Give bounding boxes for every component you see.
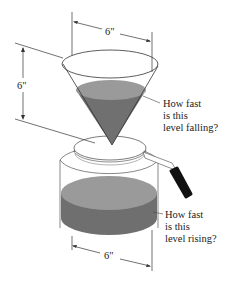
pot-question-line-1: How fast bbox=[165, 209, 203, 220]
cone-rim bbox=[62, 50, 158, 78]
pot-question-line-3: level rising? bbox=[165, 233, 217, 244]
filter-cone bbox=[62, 50, 158, 145]
dimension-label-left: 6" bbox=[17, 80, 27, 91]
dimension-label-bottom: 6" bbox=[104, 250, 114, 261]
callout-pot-level: How fast is this level rising? bbox=[153, 209, 217, 244]
pot-handle-grip bbox=[171, 168, 191, 197]
diagram-canvas: 6" 6" How fast is this level falling? Ho… bbox=[0, 0, 230, 286]
pot-question-line-2: is this bbox=[165, 221, 190, 232]
cone-question-line-1: How fast bbox=[163, 98, 201, 109]
dimension-pot-diameter: 6" bbox=[72, 230, 152, 271]
callout-cone-level: How fast is this level falling? bbox=[143, 96, 218, 133]
cone-liquid bbox=[76, 80, 146, 145]
cone-question-line-3: level falling? bbox=[163, 122, 218, 133]
cone-question-line-2: is this bbox=[163, 110, 188, 121]
dimension-cone-diameter: 6" bbox=[72, 12, 152, 72]
pot-liquid bbox=[61, 176, 157, 235]
dimension-label-top: 6" bbox=[105, 26, 115, 37]
